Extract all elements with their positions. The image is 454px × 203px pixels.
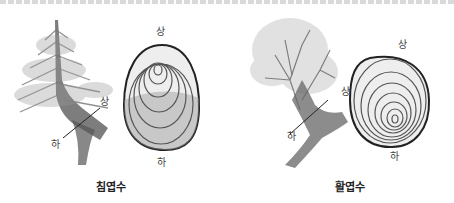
conifer-growth-rings bbox=[124, 45, 199, 150]
conifer-panel: 상 하 상 하 침엽수 bbox=[0, 0, 230, 203]
broadleaf-caption: 활엽수 bbox=[335, 178, 365, 194]
conifer-ring-top-label: 상 bbox=[156, 27, 165, 37]
conifer-caption: 침엽수 bbox=[96, 178, 126, 194]
broadleaf-ring-top-label: 상 bbox=[398, 40, 407, 50]
conifer-tree-illustration bbox=[0, 0, 230, 203]
broadleaf-ring-bottom-label: 하 bbox=[390, 152, 399, 162]
broadleaf-growth-rings bbox=[350, 57, 429, 147]
conifer-tree-lower-label: 하 bbox=[51, 140, 60, 150]
broadleaf-tree-lower-label: 하 bbox=[287, 132, 296, 142]
broadleaf-tree-upper-label: 상 bbox=[341, 87, 350, 97]
conifer-tree-upper-label: 상 bbox=[100, 97, 109, 107]
conifer-ring-bottom-label: 하 bbox=[157, 158, 166, 168]
broadleaf-tree-illustration bbox=[230, 0, 454, 203]
broadleaf-panel: 상 하 상 하 활엽수 bbox=[230, 0, 454, 203]
